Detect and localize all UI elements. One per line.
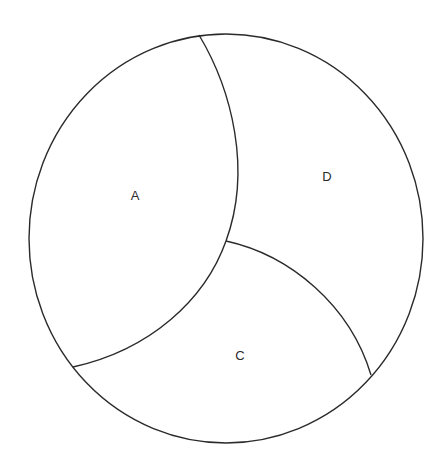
divider-a-d bbox=[199, 35, 238, 241]
divider-a-c bbox=[73, 241, 226, 367]
region-label-d: D bbox=[322, 169, 331, 184]
divider-c-d bbox=[226, 241, 371, 375]
circle-diagram: A D C bbox=[0, 0, 447, 468]
region-label-a: A bbox=[131, 188, 140, 203]
region-label-c: C bbox=[235, 348, 244, 363]
